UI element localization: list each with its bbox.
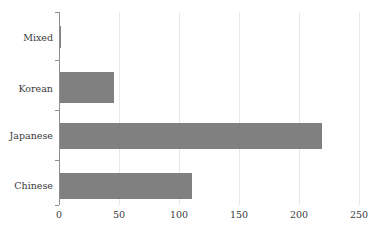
gridline-250 bbox=[359, 12, 360, 205]
plot-area bbox=[59, 12, 359, 205]
y-axis-label-japanese: Japanese bbox=[0, 131, 53, 141]
y-axis-label-korean: Korean bbox=[0, 84, 53, 94]
y-tick-0 bbox=[55, 12, 59, 13]
x-axis-label-150: 150 bbox=[230, 210, 248, 220]
y-tick-1 bbox=[55, 60, 59, 61]
y-axis-label-mixed: Mixed bbox=[0, 33, 53, 43]
y-tick-4 bbox=[55, 205, 59, 206]
x-axis-label-250: 250 bbox=[350, 210, 368, 220]
x-axis-label-0: 0 bbox=[56, 210, 62, 220]
y-tick-3 bbox=[55, 160, 59, 161]
bar-korean[interactable] bbox=[59, 72, 114, 103]
y-tick-2 bbox=[55, 110, 59, 111]
y-axis-spine bbox=[59, 12, 60, 205]
y-axis-label-chinese: Chinese bbox=[0, 181, 53, 191]
bar-chart: Mixed Korean Japanese Chinese 0 50 100 1… bbox=[0, 0, 387, 233]
x-axis-label-200: 200 bbox=[290, 210, 308, 220]
gridline-200 bbox=[299, 12, 300, 205]
y-axis-labels: Mixed Korean Japanese Chinese bbox=[0, 0, 53, 233]
x-axis-label-100: 100 bbox=[170, 210, 188, 220]
x-axis-label-50: 50 bbox=[113, 210, 125, 220]
bar-chinese[interactable] bbox=[59, 173, 192, 199]
gridline-150 bbox=[239, 12, 240, 205]
bar-japanese[interactable] bbox=[59, 123, 322, 149]
